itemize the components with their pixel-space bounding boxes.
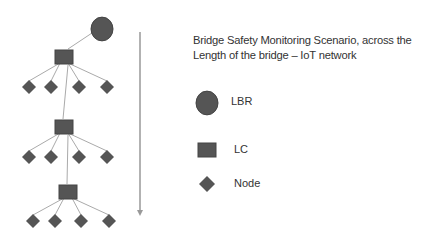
- node-diamond-icon: [100, 150, 114, 164]
- legend-lc-square-icon: [198, 143, 216, 157]
- node-diamond-icon: [26, 214, 40, 228]
- node-diamond-icon: [44, 150, 58, 164]
- link: [68, 33, 92, 49]
- lc-square-icon: [55, 50, 73, 64]
- link: [67, 135, 68, 184]
- legend-label-lbr: LBR: [231, 95, 252, 107]
- node-diamond-icon: [100, 80, 114, 94]
- legend-lbr-circle-icon: [196, 91, 218, 115]
- legend-label-lc: LC: [234, 143, 248, 155]
- link: [63, 65, 68, 119]
- node-diamond-icon: [102, 214, 116, 228]
- lbr-circle-icon: [91, 17, 113, 41]
- node-diamond-icon: [72, 150, 86, 164]
- legend-label-node: Node: [234, 177, 260, 189]
- legend-node-diamond-icon: [199, 176, 215, 192]
- lc-square-icon: [55, 120, 73, 134]
- node-diamond-icon: [22, 150, 36, 164]
- node-diamond-icon: [44, 80, 58, 94]
- legend-shapes: [196, 91, 218, 192]
- arrow-head-icon: [137, 210, 143, 216]
- title-line-2: Length of the bridge – IoT network: [193, 48, 433, 63]
- node-diamond-icon: [22, 80, 36, 94]
- link: [72, 198, 109, 215]
- node-diamond-icon: [74, 214, 88, 228]
- node-diamond-icon: [48, 214, 62, 228]
- diagram-title: Bridge Safety Monitoring Scenario, acros…: [193, 33, 433, 63]
- bridge-length-arrow-icon: [137, 32, 143, 216]
- node-diamond-icon: [72, 80, 86, 94]
- lc-square-icon: [59, 185, 77, 199]
- title-line-1: Bridge Safety Monitoring Scenario, acros…: [193, 33, 433, 48]
